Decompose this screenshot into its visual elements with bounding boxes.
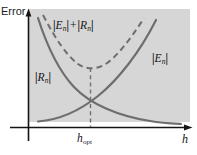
en-var: E — [155, 52, 162, 64]
x-axis — [10, 124, 193, 130]
bar-close-2: | — [91, 19, 94, 31]
bar-close-rn: | — [49, 71, 52, 83]
x-axis-title: h — [182, 133, 188, 145]
rn-var: R — [38, 71, 45, 83]
sum-operator: + — [69, 19, 78, 31]
roundoff-error-label: |Rn| — [35, 72, 51, 84]
h-opt-sub: opt — [83, 138, 92, 146]
error-plot-figure: Error |En|+|Rn| |En| |Rn| hopt h — [0, 0, 197, 155]
sum-term1-var: E — [56, 19, 63, 31]
truncation-error-label: |En| — [152, 53, 168, 65]
bar-close-en: | — [166, 52, 169, 64]
y-axis-title: Error — [1, 6, 25, 17]
total-error-label: |En|+|Rn| — [53, 20, 94, 32]
plot-canvas — [0, 0, 197, 155]
h-opt-tick-label: hopt — [77, 133, 92, 146]
h-opt-var: h — [77, 132, 83, 144]
